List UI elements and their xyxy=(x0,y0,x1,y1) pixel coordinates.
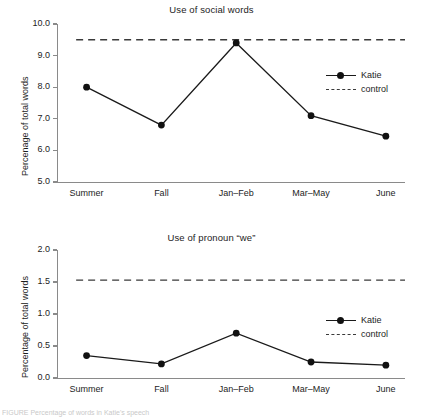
legend-label-katie: Katie xyxy=(361,315,382,325)
data-point-marker xyxy=(158,122,165,129)
y-tick-label: 0.0 xyxy=(24,372,50,382)
legend-label-katie: Katie xyxy=(361,70,382,80)
y-tick-label: 1.0 xyxy=(24,308,50,318)
y-tick-label: 2.0 xyxy=(24,244,50,254)
y-tick-label: 0.5 xyxy=(24,340,50,350)
legend: Katie control xyxy=(326,68,388,96)
legend-label-control: control xyxy=(361,329,388,339)
data-point-marker xyxy=(308,112,315,119)
x-tick-label: June xyxy=(351,188,421,198)
legend-item-katie: Katie xyxy=(326,313,388,327)
series-plot xyxy=(57,24,413,186)
y-tick-label: 1.5 xyxy=(24,276,50,286)
x-tick-label: Summer xyxy=(52,188,122,198)
y-tick-label: 5.0 xyxy=(24,176,50,186)
data-point-marker xyxy=(308,359,315,366)
y-tick-label: 7.0 xyxy=(24,113,50,123)
data-point-marker xyxy=(83,84,90,91)
y-tick-label: 8.0 xyxy=(24,81,50,91)
legend-marker-dashed-line-icon xyxy=(326,328,356,340)
data-point-marker xyxy=(382,133,389,140)
legend-label-control: control xyxy=(361,84,388,94)
x-tick-label: Mar–May xyxy=(276,188,346,198)
y-tick-label: 10.0 xyxy=(24,18,50,28)
chart-title: Use of pronoun “we” xyxy=(0,232,423,243)
chart-panel-pronoun-we: Use of pronoun “we” Percentage of total … xyxy=(0,228,423,413)
legend-item-katie: Katie xyxy=(326,68,388,82)
plot-area: 5.06.07.08.09.010.0 SummerFallJan–FebMar… xyxy=(57,24,405,182)
legend: Katie control xyxy=(326,313,388,341)
chart-panel-social-words: Use of social words Percenage of total w… xyxy=(0,0,423,210)
y-tick-label: 9.0 xyxy=(24,50,50,60)
x-tick-label: Fall xyxy=(126,188,196,198)
caption-fragment: FIGURE Percentage of words in Katie's sp… xyxy=(2,409,302,418)
legend-item-control: control xyxy=(326,327,388,341)
x-tick-label: Mar–May xyxy=(276,384,346,394)
data-point-marker xyxy=(158,361,165,368)
y-tick-label: 6.0 xyxy=(24,144,50,154)
data-point-marker xyxy=(382,362,389,369)
legend-marker-solid-line-icon xyxy=(326,314,356,326)
y-axis-label: Percentage of total words xyxy=(20,276,30,378)
x-tick-label: Jan–Feb xyxy=(201,384,271,394)
figure-two-line-charts: Use of social words Percenage of total w… xyxy=(0,0,423,419)
data-point-marker xyxy=(233,330,240,337)
data-point-marker xyxy=(83,352,90,359)
x-tick-label: Jan–Feb xyxy=(201,188,271,198)
y-axis-label: Percenage of total words xyxy=(20,76,30,176)
x-tick-label: June xyxy=(351,384,421,394)
legend-marker-dashed-line-icon xyxy=(326,83,356,95)
data-point-marker xyxy=(233,40,240,47)
chart-title: Use of social words xyxy=(0,4,423,15)
x-tick-label: Fall xyxy=(126,384,196,394)
legend-item-control: control xyxy=(326,82,388,96)
legend-marker-solid-line-icon xyxy=(326,69,356,81)
x-tick-label: Summer xyxy=(52,384,122,394)
